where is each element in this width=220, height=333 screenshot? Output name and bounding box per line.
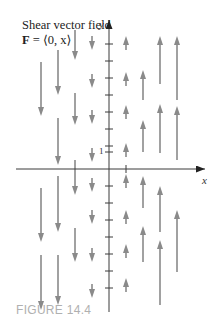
title-line-1: Shear vector field	[22, 18, 111, 33]
vector-field-plot	[0, 0, 220, 333]
arrowhead-up-icon	[123, 278, 129, 287]
arrowhead-down-icon	[72, 51, 78, 60]
arrowhead-up-icon	[140, 176, 146, 185]
shear-vector-field-figure: Shear vector field F = ⟨0, x⟩ y x 1 FIGU…	[0, 0, 220, 333]
arrowhead-up-icon	[123, 210, 129, 219]
arrowhead-up-icon	[140, 120, 146, 129]
field-symbol: F	[22, 33, 30, 47]
arrowhead-down-icon	[89, 153, 95, 162]
arrowhead-down-icon	[72, 116, 78, 125]
arrowhead-up-icon	[123, 244, 129, 253]
arrowhead-up-icon	[140, 226, 146, 235]
arrowhead-up-icon	[123, 36, 129, 45]
arrowhead-up-icon	[123, 72, 129, 81]
arrowhead-down-icon	[89, 253, 95, 262]
arrowhead-down-icon	[89, 183, 95, 192]
arrowhead-down-icon	[38, 233, 44, 242]
arrowhead-down-icon	[72, 253, 78, 262]
arrowhead-down-icon	[38, 107, 44, 116]
arrowhead-up-icon	[157, 186, 163, 195]
arrowhead-down-icon	[89, 289, 95, 298]
arrowhead-down-icon	[72, 186, 78, 195]
arrowhead-down-icon	[89, 115, 95, 124]
field-definition: = ⟨0, x⟩	[30, 33, 72, 47]
arrowhead-up-icon	[140, 70, 146, 79]
arrowhead-down-icon	[55, 86, 61, 95]
arrowhead-down-icon	[55, 223, 61, 232]
title-line-2: F = ⟨0, x⟩	[22, 33, 111, 48]
y-tick-label-1: 1	[99, 146, 104, 156]
arrowhead-up-icon	[157, 240, 163, 249]
arrowhead-up-icon	[157, 36, 163, 45]
arrowhead-down-icon	[89, 215, 95, 224]
arrowhead-down-icon	[55, 156, 61, 165]
arrowhead-up-icon	[174, 106, 180, 115]
arrowhead-down-icon	[89, 79, 95, 88]
arrowhead-up-icon	[123, 174, 129, 183]
figure-caption: FIGURE 14.4	[16, 303, 91, 317]
arrowhead-up-icon	[174, 210, 180, 219]
y-axis-label: y	[99, 18, 104, 30]
arrowhead-up-icon	[174, 36, 180, 45]
figure-title: Shear vector field F = ⟨0, x⟩	[22, 18, 111, 48]
x-axis-label: x	[202, 174, 207, 186]
arrowhead-up-icon	[123, 143, 129, 152]
arrowhead-up-icon	[123, 105, 129, 114]
arrowhead-up-icon	[157, 104, 163, 113]
